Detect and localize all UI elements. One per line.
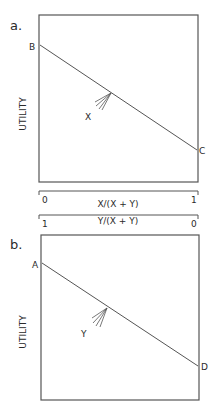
arrow-y-icon <box>92 308 107 327</box>
panel-a: a. UTILITY B C X <box>10 15 205 182</box>
arrow-x-icon <box>95 93 111 110</box>
utility-line-ad <box>42 263 198 366</box>
panel-a-label: a. <box>10 18 22 33</box>
point-b-label: B <box>29 42 35 52</box>
panel-b: b. UTILITY A D Y <box>10 235 208 400</box>
point-c-label: C <box>199 146 205 156</box>
point-d-label: D <box>201 362 208 372</box>
panel-b-frame <box>41 235 199 400</box>
axis-y-left-tick: 1 <box>42 219 48 229</box>
panel-b-ylabel: UTILITY <box>18 315 28 349</box>
arrow-y-label: Y <box>80 329 87 339</box>
axis-y-title: Y/(X + Y) <box>97 216 138 226</box>
axis-y-right-tick: 0 <box>191 219 197 229</box>
axis-y-proportion: 1 0 Y/(X + Y) <box>39 215 198 229</box>
axis-x-title: X/(X + Y) <box>97 199 138 209</box>
axis-x-left-tick: 0 <box>42 195 48 205</box>
axis-x-proportion: 0 1 X/(X + Y) <box>39 191 198 209</box>
utility-diagram: a. UTILITY B C X 0 1 X/(X + Y) 1 0 Y/(X … <box>0 0 218 416</box>
panel-b-label: b. <box>10 237 22 252</box>
panel-a-frame <box>39 15 198 182</box>
arrow-x-label: X <box>85 112 91 122</box>
panel-a-ylabel: UTILITY <box>18 97 28 131</box>
axis-x-right-tick: 1 <box>191 195 197 205</box>
point-a-label: A <box>32 260 39 270</box>
utility-line-bc <box>40 45 197 150</box>
axis-x-bracket <box>39 191 198 195</box>
